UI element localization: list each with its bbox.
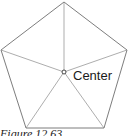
figure-caption: Figure 12.63 [0,128,62,136]
spoke-line [1,50,64,72]
spoke-line [26,72,64,128]
center-point [62,70,66,74]
center-label: Center [73,69,112,82]
